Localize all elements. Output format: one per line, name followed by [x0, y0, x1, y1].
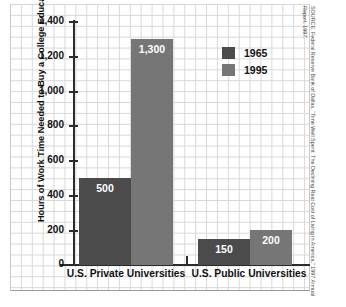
bar-private-1965[interactable]: 500	[79, 178, 131, 265]
legend-label-1995: 1995	[244, 64, 267, 76]
legend-item-1995[interactable]: 1995	[222, 61, 267, 78]
legend-swatch-icon-1995	[222, 64, 235, 76]
bar-chart-figure: Hours of Work Time Needed to Buy a Colle…	[0, 0, 346, 307]
bar-value-label: 1,300	[131, 43, 173, 55]
y-tick-label-600: 600	[4, 154, 64, 165]
x-category-label-public: U.S. Public Universities	[190, 268, 308, 279]
source-note: SOURCE: Federal Reserve Bank of Dallas, …	[292, 6, 316, 302]
legend-swatch-icon-1965	[222, 47, 235, 59]
legend: 1965 1995	[222, 44, 267, 78]
y-tick-label-200: 200	[4, 224, 64, 235]
y-tick-label-1000: 1,000	[4, 85, 64, 96]
legend-item-1965[interactable]: 1965	[222, 44, 267, 61]
x-category-label-private: U.S. Private Universities	[66, 268, 186, 279]
bar-public-1965[interactable]: 150	[198, 239, 250, 265]
bar-public-1995[interactable]: 200	[250, 230, 292, 265]
bar-value-label: 150	[198, 243, 250, 255]
legend-label-1965: 1965	[244, 47, 267, 59]
bar-value-label: 500	[79, 182, 131, 194]
plot-area: 500 1,300 150 200	[73, 22, 308, 265]
y-tick-label-400: 400	[4, 189, 64, 200]
bar-value-label: 200	[250, 234, 292, 246]
bar-private-1995[interactable]: 1,300	[131, 39, 173, 265]
y-tick-label-800: 800	[4, 119, 64, 130]
y-tick-label-1200: 1,200	[4, 50, 64, 61]
x-tick-group-divider	[186, 256, 188, 265]
y-tick-label-1400: 1,400	[4, 15, 64, 26]
y-tick-label-0: 0	[4, 258, 64, 269]
